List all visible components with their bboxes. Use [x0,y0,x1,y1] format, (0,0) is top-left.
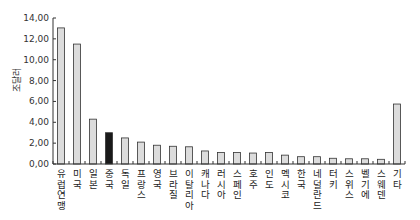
x-label: 터키 [329,168,338,190]
bar-21 [394,104,401,164]
svg-text:스: 스 [233,168,242,179]
y-tick-label: 14,00 [23,13,49,23]
svg-text:질: 질 [169,189,178,200]
svg-text:독: 독 [121,168,130,179]
x-label: 한국 [297,168,306,190]
x-label: 일본 [89,168,98,190]
svg-text:네: 네 [313,168,322,179]
x-label: 멕시코 [281,168,290,200]
svg-text:코: 코 [281,189,290,200]
y-tick-label: 8,00 [29,76,49,86]
y-tick-label: 12,00 [23,34,49,44]
x-label: 미국 [73,168,82,190]
bar-19 [362,159,369,164]
svg-text:에: 에 [361,189,370,200]
svg-text:인: 인 [265,168,274,179]
svg-text:기: 기 [393,168,402,179]
svg-text:멕: 멕 [281,168,290,179]
svg-text:시: 시 [281,179,290,190]
x-label: 벨기에 [361,168,370,200]
svg-text:아: 아 [217,189,226,200]
x-label: 인도 [265,168,274,190]
svg-text:국: 국 [105,179,114,190]
bar-17 [330,158,337,164]
x-label: 호주 [249,168,258,190]
y-axis: 0,002,004,006,008,0010,0012,0014,00 [23,13,56,169]
svg-text:아: 아 [185,200,194,211]
bar-7 [170,146,177,164]
svg-text:라: 라 [169,179,178,190]
svg-text:타: 타 [393,179,402,190]
x-label: 프랑스 [137,168,146,200]
svg-text:덴: 덴 [377,189,386,200]
svg-text:한: 한 [297,168,306,179]
svg-text:이: 이 [185,168,194,179]
x-label: 영국 [153,168,162,190]
svg-text:위: 위 [345,179,354,190]
x-label: 브라질 [169,168,178,200]
bar-0 [58,28,65,164]
svg-text:프: 프 [137,168,146,179]
bar-1 [74,44,81,164]
svg-text:국: 국 [73,179,82,190]
bar-2 [90,119,97,164]
x-label: 네덜란드 [313,168,322,211]
x-label: 스페인 [233,168,242,200]
y-label-text: 조달러 [11,68,22,92]
svg-text:드: 드 [313,200,322,211]
svg-text:시: 시 [217,179,226,190]
svg-text:리: 리 [185,189,194,200]
bar-9 [202,151,209,164]
y-tick-label: 6,00 [29,96,49,106]
x-label: 러시아 [217,168,226,200]
svg-text:러: 러 [217,168,226,179]
svg-text:터: 터 [329,168,338,179]
x-label: 독일 [121,168,130,190]
svg-text:키: 키 [329,179,338,190]
bar-14 [282,155,289,164]
svg-text:덜: 덜 [313,179,322,190]
svg-text:페: 페 [233,179,242,190]
x-label: 스웨덴 [377,168,386,200]
x-axis-labels: 유럽연맹미국일본중국독일프랑스영국브라질이탈리아캐나다러시아스페인호주인도멕시코… [57,168,402,211]
x-label: 기타 [393,168,402,190]
y-axis-label: 조달러 [11,68,22,92]
svg-text:도: 도 [265,179,274,190]
bar-6 [154,145,161,164]
x-label: 유럽연맹 [57,168,66,211]
x-label: 이탈리아 [185,168,194,211]
bar-20 [378,159,385,164]
bar-11 [234,153,241,164]
svg-text:국: 국 [153,179,162,190]
svg-text:란: 란 [313,189,322,200]
svg-text:스: 스 [345,189,354,200]
svg-text:스: 스 [137,189,146,200]
svg-text:주: 주 [249,179,258,190]
svg-text:기: 기 [361,179,370,190]
bar-8 [186,147,193,164]
svg-text:일: 일 [89,168,98,179]
x-label: 캐나다 [201,168,210,200]
y-tick-label: 10,00 [23,55,49,65]
svg-text:국: 국 [297,179,306,190]
x-label: 스위스 [345,168,354,200]
bar-10 [218,153,225,164]
svg-text:본: 본 [89,179,98,190]
bars [58,28,401,164]
svg-text:벨: 벨 [361,168,370,179]
y-tick-label: 0,00 [29,159,49,169]
bar-4 [122,138,129,164]
svg-text:맹: 맹 [57,200,66,211]
svg-text:일: 일 [121,179,130,190]
svg-text:탈: 탈 [185,179,194,190]
x-label: 중국 [105,168,114,190]
bar-5 [138,142,145,164]
svg-text:다: 다 [201,189,210,200]
bar-3 [106,133,113,164]
bar-13 [266,153,273,164]
svg-text:유: 유 [57,168,66,179]
bar-16 [314,157,321,164]
svg-text:브: 브 [169,168,178,179]
svg-text:웨: 웨 [377,179,386,190]
svg-text:영: 영 [153,168,162,179]
